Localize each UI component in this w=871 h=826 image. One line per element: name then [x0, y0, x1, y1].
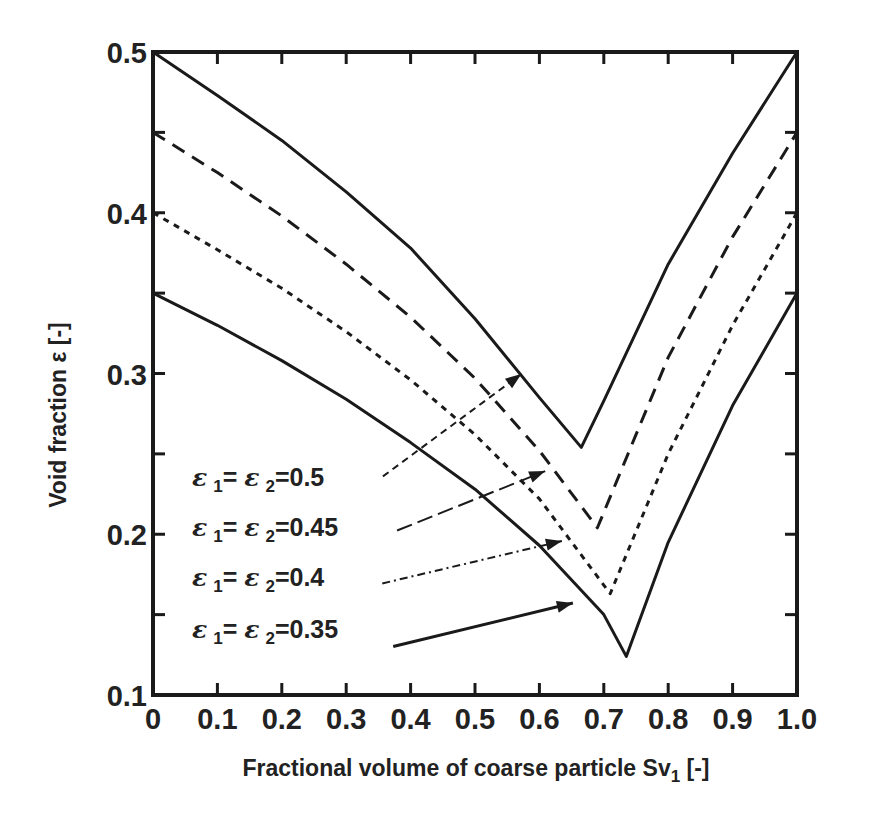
axes-box — [153, 52, 797, 695]
annotation-arrows — [382, 374, 573, 646]
y-tick-label: 0.5 — [107, 37, 147, 69]
arrowhead-icon — [528, 471, 545, 483]
x-tick-label: 0.9 — [712, 703, 752, 735]
legend-item-0.35: ε1= ε2=0.35 — [192, 615, 338, 648]
y-axis-ticks: 0.10.20.30.40.5 — [107, 37, 797, 712]
plot-frame — [153, 52, 797, 695]
legend-item-0.5: ε1= ε2=0.5 — [192, 463, 324, 496]
y-tick-label: 0.1 — [107, 680, 147, 712]
void-fraction-chart: 00.10.20.30.40.50.60.70.80.91.0 0.10.20.… — [0, 0, 871, 826]
x-tick-label: 1.0 — [777, 703, 817, 735]
legend-item-0.4: ε1= ε2=0.4 — [192, 563, 324, 596]
x-tick-label: 0.4 — [390, 703, 430, 735]
y-tick-label: 0.4 — [107, 198, 147, 230]
x-tick-label: 0.1 — [197, 703, 237, 735]
arrowhead-icon — [505, 374, 521, 388]
x-tick-label: 0 — [145, 703, 161, 735]
legend-item-0.45: ε1= ε2=0.45 — [192, 513, 338, 546]
x-tick-label: 0.2 — [262, 703, 302, 735]
annotation-arrow-line-2 — [382, 541, 562, 583]
y-axis-title: Void fraction ε [-] — [45, 322, 71, 508]
curve-series-0 — [153, 52, 797, 447]
legend: ε1= ε2=0.5 ε1= ε2=0.45 ε1= ε2=0.4 ε1= ε2… — [192, 463, 338, 648]
annotation-arrow-line-3 — [393, 603, 573, 646]
x-tick-label: 0.7 — [584, 703, 624, 735]
x-tick-label: 0.8 — [648, 703, 688, 735]
y-tick-label: 0.2 — [107, 519, 147, 551]
x-tick-label: 0.3 — [326, 703, 366, 735]
x-axis-title: Fractional volume of coarse particle Sv1… — [242, 755, 709, 786]
annotation-arrow-line-1 — [397, 471, 545, 530]
annotation-arrow-line-0 — [383, 374, 521, 476]
x-tick-label: 0.5 — [455, 703, 495, 735]
y-tick-label: 0.3 — [107, 359, 147, 391]
x-tick-label: 0.6 — [519, 703, 559, 735]
